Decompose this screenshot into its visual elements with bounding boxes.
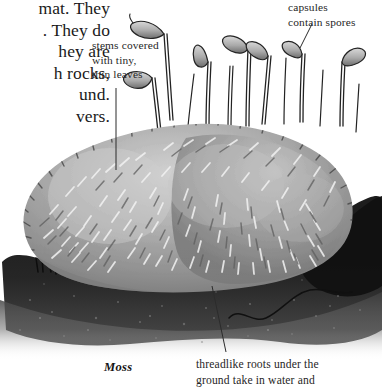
capsule: [282, 42, 302, 58]
callout-capsules-contain-spores: capsules contain spores: [288, 0, 356, 29]
capsule: [131, 21, 164, 38]
capsule: [246, 42, 268, 60]
callout-threadlike-roots: threadlike roots under the ground take i…: [196, 357, 319, 388]
capsule: [193, 45, 208, 67]
figure-caption-moss: Moss: [104, 360, 133, 375]
callout-stems-covered-with-tiny-thin-leaves: stems covered with tiny, thin leaves: [92, 38, 159, 82]
sporophytes: [124, 14, 366, 132]
capsule: [223, 36, 248, 53]
moss-diagram-page: mat. They . They do hey are h rocks, und…: [0, 0, 382, 389]
capsule: [342, 48, 365, 66]
